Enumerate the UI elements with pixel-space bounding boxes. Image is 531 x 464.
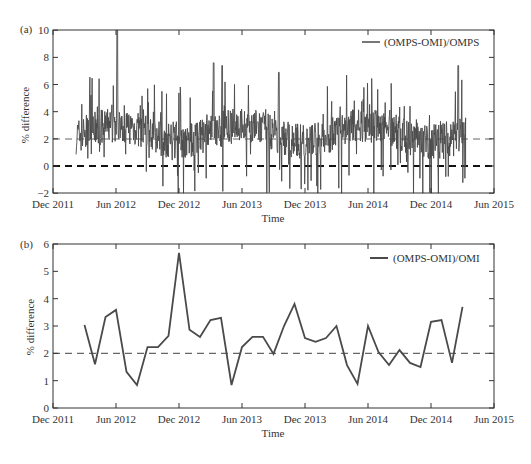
x-tick-label: Jun 2014: [348, 413, 389, 425]
y-tick-label: 5: [44, 265, 50, 277]
x-tick-label: Dec 2011: [32, 413, 74, 425]
panel-a-frame: [53, 30, 494, 193]
panel-b-x-axis: Dec 2011Jun 2012Dec 2012Jun 2013Dec 2013…: [32, 244, 515, 425]
panel-a-x-axis-title: Time: [262, 212, 285, 224]
x-tick-label: Dec 2014: [410, 198, 453, 210]
panel-b-legend: (OMPS-OMI)/OMI: [370, 252, 480, 265]
y-tick-label: 2: [44, 347, 50, 359]
y-tick-label: 2: [44, 133, 50, 145]
y-tick-label: 6: [44, 79, 50, 91]
y-tick-label: 6: [44, 238, 50, 250]
y-tick-label: 0: [44, 160, 50, 172]
x-tick-label: Dec 2013: [284, 198, 327, 210]
x-tick-label: Dec 2012: [158, 413, 200, 425]
panel-b-y-axis-title: % difference: [24, 299, 36, 355]
x-tick-label: Jun 2012: [96, 198, 136, 210]
figure: (a) −20246810 Dec 2011Jun 2012Dec 2012Ju…: [0, 0, 531, 464]
panel-b-label: (b): [20, 238, 33, 251]
x-tick-label: Jun 2014: [348, 198, 389, 210]
y-tick-label: 4: [44, 293, 50, 305]
panel-a-legend: (OMPS-OMI)/OMPS: [362, 36, 479, 49]
y-tick-label: 4: [44, 106, 50, 118]
series-omps-omi-over-omi: [85, 253, 463, 385]
x-tick-label: Jun 2013: [222, 413, 263, 425]
panel-a-label: (a): [20, 23, 33, 36]
y-tick-label: 1: [44, 375, 50, 387]
series-line: [76, 30, 466, 193]
legend-label: (OMPS-OMI)/OMI: [393, 252, 480, 265]
panel-b-x-axis-title: Time: [262, 427, 285, 439]
panel-b: (b) 0123456 Dec 2011Jun 2012Dec 2012Jun …: [20, 238, 515, 439]
x-tick-label: Dec 2012: [158, 198, 200, 210]
x-tick-label: Jun 2013: [222, 198, 263, 210]
series-omps-omi-over-omps: [76, 30, 466, 193]
y-tick-label: 8: [44, 51, 50, 63]
x-tick-label: Dec 2014: [410, 413, 453, 425]
x-tick-label: Dec 2011: [32, 198, 74, 210]
y-tick-label: 3: [44, 320, 50, 332]
panel-a: (a) −20246810 Dec 2011Jun 2012Dec 2012Ju…: [19, 23, 515, 224]
x-tick-label: Jun 2015: [474, 413, 515, 425]
x-tick-label: Dec 2013: [284, 413, 327, 425]
x-tick-label: Jun 2015: [474, 198, 515, 210]
x-tick-label: Jun 2012: [96, 413, 136, 425]
panel-a-y-axis-title: % difference: [19, 87, 31, 143]
panel-b-y-axis: 0123456: [44, 238, 495, 414]
legend-label: (OMPS-OMI)/OMPS: [384, 36, 479, 49]
y-tick-label: 10: [38, 24, 50, 36]
